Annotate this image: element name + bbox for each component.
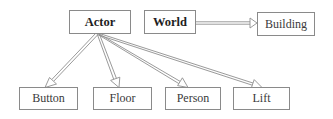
node-actor-label: Actor: [85, 15, 116, 30]
node-actor: Actor: [69, 10, 131, 34]
node-lift-label: Lift: [253, 91, 271, 106]
node-building: Building: [257, 12, 315, 36]
node-floor-label: Floor: [109, 91, 135, 106]
node-building-label: Building: [265, 17, 307, 32]
edge-actor-button: [45, 33, 98, 88]
node-button: Button: [19, 87, 78, 110]
node-floor: Floor: [93, 87, 152, 110]
edge-actor-person: [98, 33, 189, 88]
edge-world-building: [195, 18, 257, 28]
node-person: Person: [165, 87, 221, 110]
edge-actor-lift: [98, 33, 262, 88]
node-lift: Lift: [233, 87, 290, 110]
node-person-label: Person: [177, 91, 210, 106]
node-world: World: [144, 10, 196, 34]
node-world-label: World: [153, 15, 187, 30]
class-diagram: Actor World Building Button Floor Person…: [0, 0, 333, 119]
node-button-label: Button: [32, 91, 65, 106]
